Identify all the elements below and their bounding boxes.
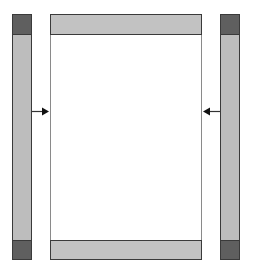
right-column xyxy=(220,14,240,260)
top-bar xyxy=(50,14,202,35)
main-frame xyxy=(50,14,202,260)
left-arrow-icon xyxy=(32,102,50,113)
bottom-bar xyxy=(50,240,202,260)
right-column-top-cap xyxy=(220,14,240,35)
left-column-top-cap xyxy=(12,14,32,35)
left-column xyxy=(12,14,32,260)
left-column-bottom-cap xyxy=(12,240,32,260)
right-arrow-icon xyxy=(202,102,220,113)
right-column-bottom-cap xyxy=(220,240,240,260)
